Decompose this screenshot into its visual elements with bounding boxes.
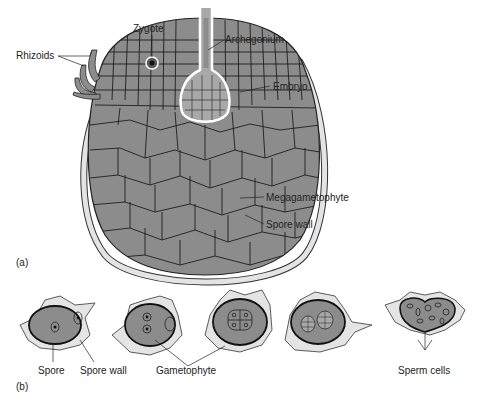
megagametophyte-figure [73, 8, 325, 282]
panel-a-label: (a) [16, 257, 28, 268]
label-zygote: Zygote [133, 23, 164, 34]
label-megagametophyte: Megagametophyte [266, 192, 349, 203]
spore-stage-1 [20, 296, 95, 350]
label-rhizoids: Rhizoids [16, 50, 54, 61]
label-spore: Spore [38, 365, 65, 376]
diagram-canvas: Zygote Archegonium Rhizoids Embryo Megag… [0, 0, 486, 414]
spore-stage-4 [285, 292, 372, 352]
label-archegonium: Archegonium [225, 34, 284, 45]
spore-sequence [20, 290, 465, 355]
label-spore-wall-b: Spore wall [80, 365, 127, 376]
spore-stage-3 [205, 290, 272, 352]
spore-stage-2 [112, 296, 182, 355]
spore-stage-5 [385, 292, 465, 335]
panel-b-label: (b) [16, 381, 28, 392]
zygote [146, 57, 158, 69]
label-embryo: Embryo [273, 81, 308, 92]
label-sperm-cells: Sperm cells [398, 365, 450, 376]
label-gametophyte: Gametophyte [156, 365, 216, 376]
label-spore-wall-a: Spore wall [266, 219, 313, 230]
